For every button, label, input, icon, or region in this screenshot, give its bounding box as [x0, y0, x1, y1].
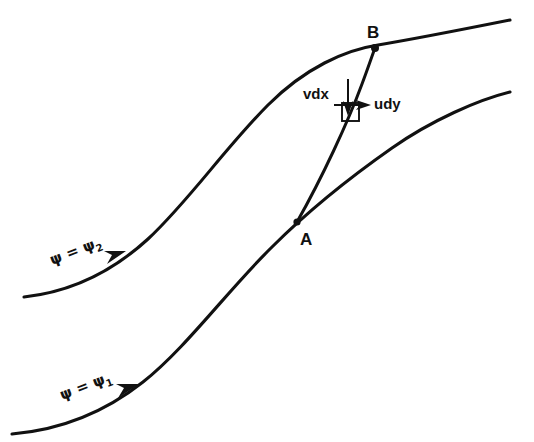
point-a-marker	[293, 218, 300, 225]
vdx-label: vdx	[303, 86, 329, 101]
udy-label: udy	[374, 96, 401, 111]
flow-arrowhead-lower-icon	[116, 384, 139, 398]
streamline-flow-diagram: B A vdx udy ψ = ψ2 ψ = ψ1	[0, 0, 534, 442]
flow-arrowhead-upper-icon	[104, 251, 126, 264]
point-b-label: B	[367, 24, 379, 41]
diagram-canvas	[0, 0, 534, 442]
particle-path-a-to-b	[297, 48, 375, 222]
point-b-marker	[371, 44, 379, 52]
streamline-upper-psi2	[24, 20, 510, 297]
point-a-label: A	[300, 231, 312, 248]
